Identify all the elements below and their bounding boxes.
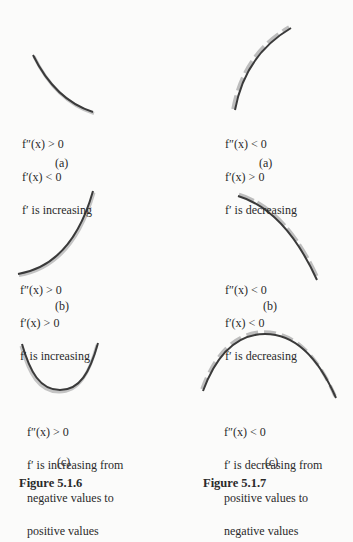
condition-line: f″(x) > 0 (22, 139, 92, 150)
condition-line: f′ is increasing (22, 205, 92, 216)
condition-line: f′ is decreasing (225, 351, 297, 362)
condition-line: positive values (27, 526, 123, 537)
panel-label-5-1-7-a: (a) (259, 157, 272, 169)
panel-label-5-1-7-b: (b) (263, 300, 277, 312)
condition-line: negative values (224, 526, 322, 537)
conditions-5-1-6-b: f″(x) > 0 f′(x) > 0 f′ is increasing (20, 263, 90, 373)
condition-line: f′ is increasing from (27, 460, 123, 471)
condition-line: f″(x) > 0 (20, 285, 90, 296)
panel-label-5-1-7-c: (c) (265, 456, 278, 468)
condition-line: f″(x) < 0 (225, 285, 297, 296)
conditions-5-1-7-c: f″(x) < 0 f′ is decreasing from positive… (224, 405, 322, 542)
curve-5-1-6-a (33, 55, 94, 114)
condition-line: f″(x) < 0 (224, 427, 322, 438)
condition-line: f′(x) < 0 (225, 318, 297, 329)
panel-label-5-1-6-a: (a) (55, 157, 68, 169)
condition-line: f′(x) > 0 (20, 318, 90, 329)
condition-line: f″(x) < 0 (225, 139, 297, 150)
curve-5-1-7-a (233, 27, 291, 110)
conditions-5-1-7-a: f″(x) < 0 f′(x) > 0 f′ is decreasing (225, 117, 297, 227)
condition-line: f′(x) < 0 (22, 172, 92, 183)
conditions-5-1-6-a: f″(x) > 0 f′(x) < 0 f′ is increasing (22, 117, 92, 227)
condition-line: f′(x) > 0 (225, 172, 297, 183)
conditions-5-1-7-b: f″(x) < 0 f′(x) < 0 f′ is decreasing (225, 263, 297, 373)
panel-label-5-1-6-c: (c) (57, 456, 70, 468)
figure-caption-5-1-6: Figure 5.1.6 (19, 476, 82, 490)
condition-line: negative values to (27, 493, 123, 504)
condition-line: positive values to (224, 493, 322, 504)
condition-line: f′ is decreasing (225, 205, 297, 216)
figure-caption-5-1-7: Figure 5.1.7 (203, 476, 266, 490)
condition-line: f″(x) > 0 (27, 427, 123, 438)
condition-line: f′ is increasing (20, 351, 90, 362)
conditions-5-1-6-c: f″(x) > 0 f′ is increasing from negative… (27, 405, 123, 542)
panel-label-5-1-6-b: (b) (55, 300, 69, 312)
